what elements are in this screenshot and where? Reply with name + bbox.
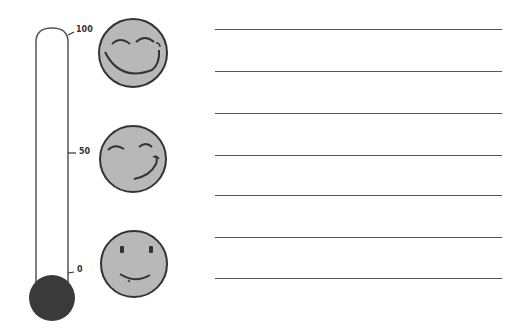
tick-label-0: 0 [77,265,83,274]
writing-line[interactable] [215,113,502,114]
writing-line[interactable] [215,71,502,72]
feelings-thermometer-diagram [0,0,525,336]
tick-label-100: 100 [76,25,93,34]
writing-line[interactable] [215,195,502,196]
content-face-icon [100,126,166,192]
writing-line[interactable] [215,155,502,156]
very-happy-face-icon [99,19,167,87]
writing-line[interactable] [215,278,502,279]
tick-label-50: 50 [79,147,90,156]
writing-line[interactable] [215,29,502,30]
thermometer-bulb [29,275,75,321]
writing-line[interactable] [215,237,502,238]
thermometer-tube [36,28,68,285]
neutral-smile-face-icon [101,231,167,297]
